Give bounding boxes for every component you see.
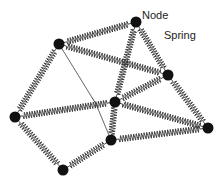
node: [203, 123, 214, 134]
spring: [15, 117, 63, 170]
spring: [59, 21, 136, 44]
spring: [115, 102, 208, 129]
node: [10, 112, 21, 123]
spring: [63, 140, 111, 170]
node: [131, 17, 142, 28]
spring-network-diagram: [0, 0, 221, 183]
node-label: Node: [142, 9, 168, 21]
spring: [111, 126, 208, 142]
node: [163, 70, 174, 81]
spring: [15, 100, 115, 119]
spring: [15, 44, 59, 117]
node: [110, 97, 121, 108]
node: [54, 39, 65, 50]
node: [58, 165, 69, 176]
node: [106, 135, 117, 146]
spring-label: Spring: [164, 29, 196, 41]
spring: [96, 104, 111, 140]
spring: [109, 102, 118, 140]
